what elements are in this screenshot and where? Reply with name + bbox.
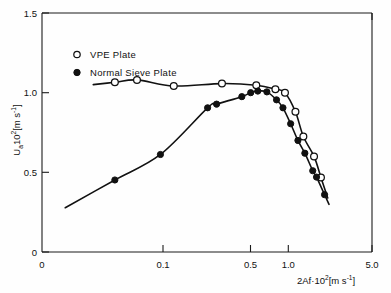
chart-figure: 1.5 1.0 0.5 0 0 0.1 0.5 1.0 5.0 2Af·102[… [0,0,391,293]
y-tick-label-1_5: 1.5 [24,8,37,19]
data-point-vpe-plate-2 [170,83,177,90]
data-point-normal-sieve-plate-1 [157,151,163,157]
y-axis-title-units-close: ] [11,104,22,107]
svg-text:2Af·102[m s-1]: 2Af·102[m s-1] [297,274,355,286]
legend-label-normal-sieve-plate: Normal Sieve Plate [90,67,177,78]
data-point-normal-sieve-plate-6 [255,88,261,94]
x-axis-title: 2Af·102[m s-1] [297,274,355,286]
series-line-normal-sieve-plate [65,91,329,208]
data-point-normal-sieve-plate-13 [310,168,316,174]
x-tick-label-0_5: 0.5 [244,259,257,270]
data-point-vpe-plate-6 [282,89,289,96]
y-tick-label-0_5: 0.5 [24,167,37,178]
data-point-vpe-plate-0 [111,79,118,86]
y-axis-title-factor: 10 [11,135,22,146]
data-point-normal-sieve-plate-10 [288,121,294,127]
y-axis-title-units: [m s [11,113,22,131]
data-point-vpe-plate-1 [134,77,141,84]
x-tick-label-origin: 0 [39,259,44,270]
x-tick-label-1_0: 1.0 [282,259,295,270]
y-axis-title: Ua102[m s-1] [10,104,24,155]
series-line-vpe-plate [93,80,327,198]
data-point-normal-sieve-plate-5 [248,90,254,96]
data-point-normal-sieve-plate-8 [273,97,279,103]
data-point-normal-sieve-plate-2 [205,105,211,111]
y-tick-label-1_0: 1.0 [24,87,37,98]
x-axis-title-base: 2Af·10 [297,275,325,286]
data-point-normal-sieve-plate-4 [239,94,245,100]
data-point-normal-sieve-plate-14 [313,174,319,180]
data-point-vpe-plate-5 [272,86,279,93]
data-point-vpe-plate-4 [253,82,260,89]
data-point-normal-sieve-plate-3 [213,101,219,107]
legend-marker-filled-circle-icon [74,69,80,75]
data-point-normal-sieve-plate-12 [302,150,308,156]
data-point-vpe-plate-7 [292,108,299,115]
data-point-normal-sieve-plate-0 [112,177,118,183]
data-series-layer [65,77,329,208]
x-tick-label-0_1: 0.1 [156,259,169,270]
data-point-normal-sieve-plate-9 [280,105,286,111]
legend-marker-open-circle-icon [74,51,80,57]
y-axis-ticks [42,13,49,252]
legend-label-vpe-plate: VPE Plate [90,49,136,60]
data-point-normal-sieve-plate-11 [295,137,301,143]
x-axis-title-units-close: ] [353,275,356,286]
svg-text:Ua102[m s-1]: Ua102[m s-1] [10,104,24,155]
data-point-vpe-plate-3 [219,80,226,87]
data-point-normal-sieve-plate-15 [321,192,327,198]
y-tick-label-0: 0 [32,247,37,258]
data-point-normal-sieve-plate-7 [264,89,270,95]
scatter-line-chart: 1.5 1.0 0.5 0 0 0.1 0.5 1.0 5.0 2Af·102[… [0,0,391,293]
x-axis-ticks [163,13,372,252]
chart-legend: VPE Plate Normal Sieve Plate [74,49,177,78]
data-point-vpe-plate-9 [311,153,318,160]
x-tick-label-5_0: 5.0 [365,259,378,270]
x-axis-title-units: [m s [329,275,347,286]
